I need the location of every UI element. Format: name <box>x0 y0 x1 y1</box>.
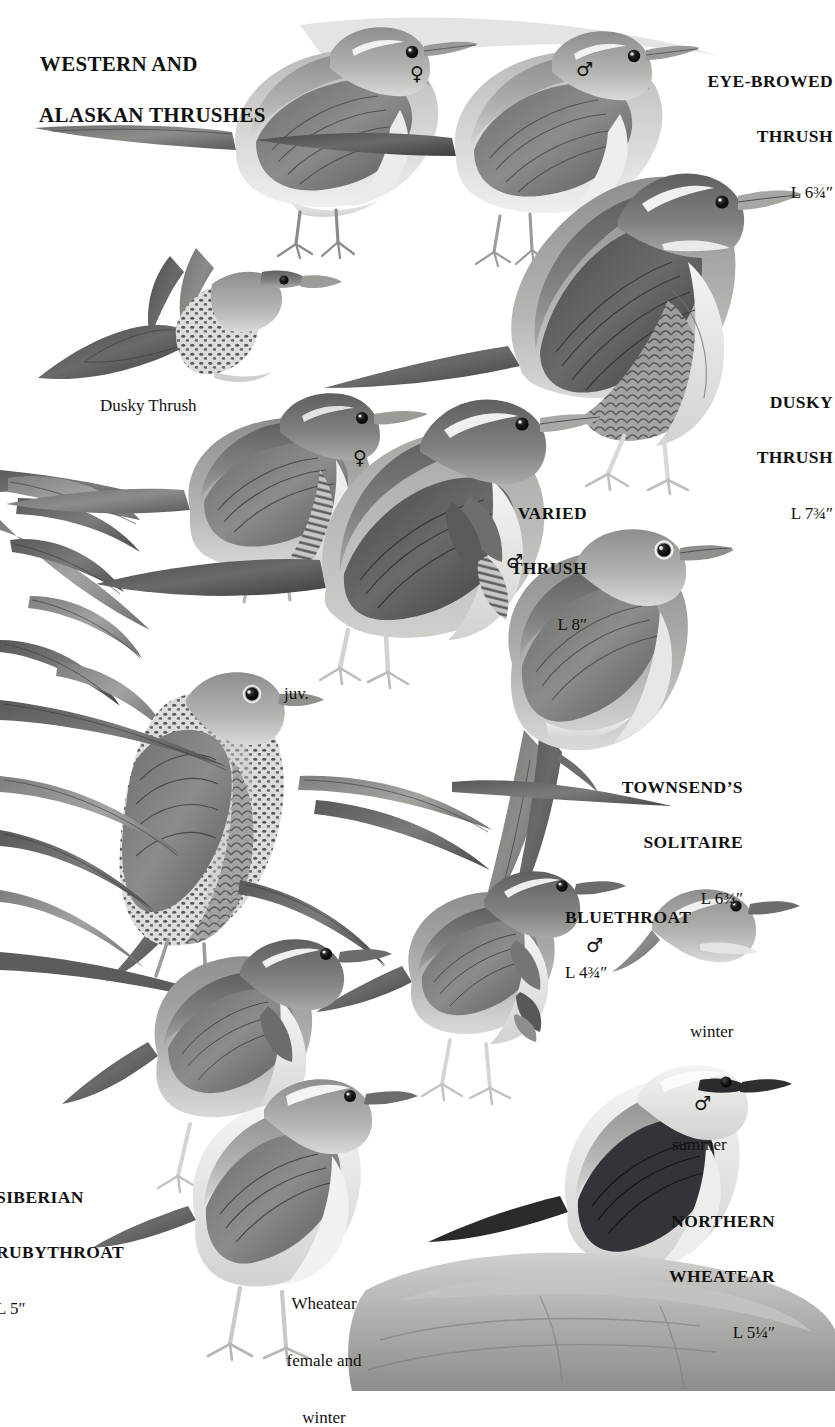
species-name-line1: NORTHERN <box>620 1212 775 1232</box>
species-name-line1: BLUETHROAT <box>565 908 765 928</box>
species-label-siberian-rubythroat: SIBERIAN RUBYTHROAT L 5″ <box>0 1152 171 1353</box>
species-name-line1: TOWNSEND’S <box>558 778 743 798</box>
caption-line3: winter <box>268 1408 380 1427</box>
species-length: L 5″ <box>0 1299 171 1318</box>
species-name-line2: WHEATEAR <box>620 1267 775 1287</box>
species-name-line1: DUSKY <box>648 393 833 413</box>
species-name-line1: VARIED <box>462 504 587 524</box>
sex-symbol-bluethroat-male: ♂ <box>586 936 603 955</box>
species-name-line1: SIBERIAN <box>0 1188 171 1208</box>
caption-line2: female and <box>268 1351 380 1370</box>
bird-dusky-thrush-flight <box>38 248 342 382</box>
species-length: L 8″ <box>462 615 587 634</box>
species-label-dusky-thrush: DUSKY THRUSH L 7¾″ <box>648 357 833 558</box>
caption-wheatear-summer: summer <box>672 1135 727 1154</box>
species-length: L 7¾″ <box>648 504 833 523</box>
sex-symbol-varied-thrush-male: ♂ <box>506 552 523 571</box>
species-name-line2: THRUSH <box>648 448 833 468</box>
caption-varied-thrush-juvenile: juv. <box>284 684 309 703</box>
species-name-line2: RUBYTHROAT <box>0 1243 171 1263</box>
caption-dusky-thrush-flight: Dusky Thrush <box>100 396 197 415</box>
caption-wheatear-winter: winter <box>690 1022 733 1041</box>
caption-wheatear-female-and-winter: Wheatear female and winter <box>268 1256 380 1427</box>
species-label-varied-thrush: VARIED THRUSH L 8″ <box>462 468 587 669</box>
page-title-line2: ALASKAN THRUSHES <box>39 103 266 127</box>
species-name-line2: SOLITAIRE <box>558 833 743 853</box>
species-label-eye-browed-thrush: EYE-BROWED THRUSH L 6¾″ <box>648 36 833 237</box>
species-length: L 6¾″ <box>648 183 833 202</box>
sex-symbol-eye-browed-thrush-female: ♀ <box>410 64 424 83</box>
species-length: L 5¼″ <box>620 1323 775 1342</box>
sex-symbol-varied-thrush-female: ♀ <box>353 448 367 467</box>
species-name-line2: THRUSH <box>648 127 833 147</box>
sex-symbol-eye-browed-thrush-male: ♂ <box>576 60 593 79</box>
species-name-line2: THRUSH <box>462 559 587 579</box>
page-title-line1: WESTERN AND <box>40 52 198 76</box>
species-name-line1: EYE-BROWED <box>648 72 833 92</box>
species-length: L 4¾″ <box>565 963 765 982</box>
species-label-northern-wheatear: NORTHERN WHEATEAR L 5¼″ <box>620 1176 775 1377</box>
sex-symbol-northern-wheatear-male: ♂ <box>694 1094 711 1113</box>
caption-line1: Wheatear <box>268 1294 380 1313</box>
page-title: WESTERN AND ALASKAN THRUSHES <box>18 26 318 154</box>
